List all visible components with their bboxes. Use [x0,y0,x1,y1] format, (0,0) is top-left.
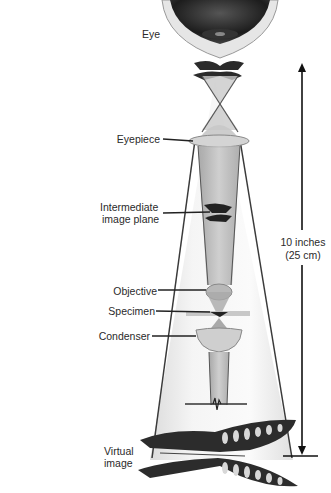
label-virtual-line2: image [104,457,133,469]
label-intermediate-line2: image plane [102,213,159,225]
label-intermediate-line1: Intermediate [100,201,158,213]
label-objective: Objective [100,285,157,297]
label-eyepiece: Eyepiece [100,133,160,145]
label-distance-line2: (25 cm) [276,249,330,261]
label-condenser: Condenser [90,330,150,342]
label-distance-line1: 10 inches [276,236,330,248]
eyepiece-lens [189,135,249,147]
eye-illustration [162,0,278,58]
label-eye: Eye [120,28,160,40]
label-virtual-line1: Virtual [104,445,134,457]
label-specimen: Specimen [100,305,155,317]
